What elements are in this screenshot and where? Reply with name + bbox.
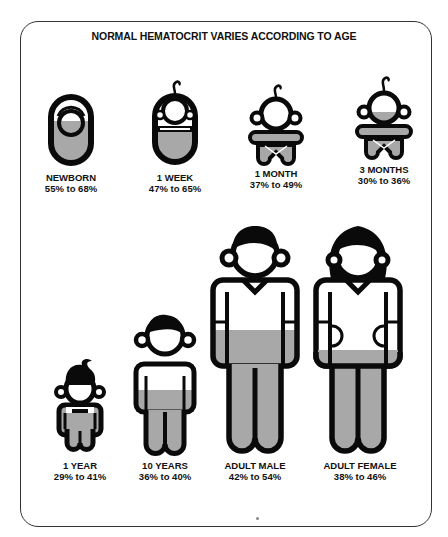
baby-icon-3-months xyxy=(352,74,416,162)
hematocrit-range: 42% to 54% xyxy=(200,471,310,482)
hematocrit-range: 30% to 36% xyxy=(329,175,439,186)
label-1-month: 1 MONTH 37% to 49% xyxy=(221,168,331,190)
label-3-months: 3 MONTHS 30% to 36% xyxy=(329,164,439,186)
swaddled-infant-icon xyxy=(150,78,200,168)
woman-icon xyxy=(310,222,406,456)
group-name: 1 WEEK xyxy=(120,172,230,183)
toddler-icon xyxy=(50,355,110,455)
label-1-week: 1 WEEK 47% to 65% xyxy=(120,172,230,194)
label-adult-male: ADULT MALE 42% to 54% xyxy=(200,460,310,482)
group-name: 1 MONTH xyxy=(221,168,331,179)
hematocrit-range: 37% to 49% xyxy=(221,179,331,190)
swaddled-newborn-icon xyxy=(46,92,96,168)
label-newborn: NEWBORN 55% to 68% xyxy=(16,172,126,194)
group-name: ADULT MALE xyxy=(200,460,310,471)
label-adult-female: ADULT FEMALE 38% to 46% xyxy=(305,460,415,482)
page-dot xyxy=(256,517,259,520)
hematocrit-range: 47% to 65% xyxy=(120,183,230,194)
man-icon xyxy=(207,222,303,456)
baby-icon-1-month xyxy=(245,82,307,168)
hematocrit-range: 38% to 46% xyxy=(305,471,415,482)
group-name: ADULT FEMALE xyxy=(305,460,415,471)
group-name: 3 MONTHS xyxy=(329,164,439,175)
hematocrit-range: 55% to 68% xyxy=(16,183,126,194)
group-name: NEWBORN xyxy=(16,172,126,183)
infographic-title: NORMAL HEMATOCRIT VARIES ACCORDING TO AG… xyxy=(0,30,448,42)
child-icon xyxy=(128,310,202,456)
